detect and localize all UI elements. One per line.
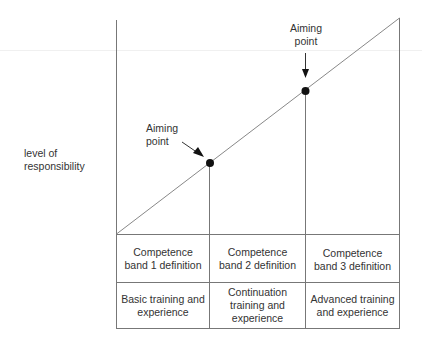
y-axis-label-line2: responsibility [24, 160, 85, 173]
aiming-point-1-dot [206, 159, 214, 167]
cell-text: Advanced training [310, 293, 394, 306]
cell-text: band 3 definition [314, 260, 391, 273]
aiming-point-1-label: Aiming point [146, 122, 178, 148]
cell-text: Continuation [228, 286, 287, 299]
cell-text: and experience [310, 306, 394, 319]
table-cell-continuation-training: Continuation training and experience [210, 283, 305, 328]
aiming-point-1-arrow-icon [182, 142, 204, 157]
aiming-point-1-label-line1: Aiming [146, 122, 178, 135]
cell-text: band 2 definition [219, 259, 296, 272]
cell-text: Basic training and [121, 293, 204, 306]
table-cell-basic-training: Basic training and experience [117, 283, 209, 328]
y-axis-label-line1: level of [24, 147, 85, 160]
cell-text: training and [228, 299, 287, 312]
aiming-point-2-dot [302, 87, 310, 95]
aiming-point-1-label-line2: point [146, 135, 178, 148]
cell-text: experience [121, 306, 204, 319]
cell-text: experience [228, 312, 287, 325]
table-cell-band2-definition: Competence band 2 definition [210, 235, 305, 282]
cell-text: Competence [314, 247, 391, 260]
table-cell-band3-definition: Competence band 3 definition [306, 236, 399, 283]
cell-text: band 1 definition [124, 259, 201, 272]
table-cell-band1-definition: Competence band 1 definition [117, 235, 209, 282]
cell-text: Competence [124, 246, 201, 259]
aiming-point-2-label: Aiming point [282, 22, 330, 48]
cell-text: Competence [219, 246, 296, 259]
table-cell-advanced-training: Advanced training and experience [306, 283, 399, 328]
aiming-point-2-label-line2: point [282, 35, 330, 48]
aiming-point-2-label-line1: Aiming [282, 22, 330, 35]
y-axis-label: level of responsibility [24, 147, 85, 173]
aiming-point-2-arrow-icon [302, 53, 309, 78]
